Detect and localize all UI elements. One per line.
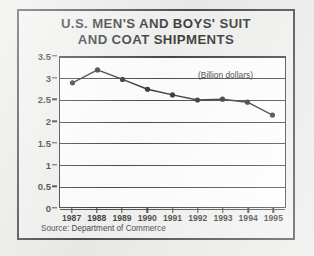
x-axis-tick-label: 1991	[163, 213, 182, 223]
data-point-marker	[195, 97, 200, 102]
x-axis-tick-mark	[273, 208, 274, 213]
data-point-marker	[245, 100, 250, 105]
x-axis-tick-label: 1990	[138, 213, 157, 223]
page-title: U.S. MEN'S AND BOYS' SUIT AND COAT SHIPM…	[19, 16, 293, 47]
chart-title-line-2: AND COAT SHIPMENTS	[19, 32, 293, 48]
x-axis-tick-label: 1988	[87, 213, 106, 223]
y-axis-tick-label: 1	[46, 159, 51, 170]
data-point-marker	[145, 87, 150, 92]
y-axis-tick-mark	[52, 207, 57, 208]
x-axis-tick-mark	[247, 208, 248, 213]
y-axis-tick-label: 2	[46, 116, 51, 127]
y-axis: 00.511.522.533.5	[19, 56, 57, 208]
x-axis-tick-label: 1987	[62, 213, 81, 223]
chart-title-line-1: U.S. MEN'S AND BOYS' SUIT	[61, 16, 251, 31]
data-point-marker	[170, 92, 175, 97]
x-axis-tick-label: 1993	[213, 213, 232, 223]
x-axis-tick-mark	[71, 208, 72, 213]
y-axis-tick-mark	[52, 164, 57, 165]
x-axis-tick-mark	[222, 208, 223, 213]
x-axis-tick-mark	[96, 208, 97, 213]
x-axis-tick-label: 1994	[239, 213, 258, 223]
x-axis-tick-mark	[197, 208, 198, 213]
y-axis-tick-label: 0	[46, 203, 51, 214]
y-axis-tick-label: 3	[46, 72, 51, 83]
y-axis-tick-label: 2.5	[38, 94, 51, 105]
x-axis-tick-mark	[121, 208, 122, 213]
y-axis-tick-mark	[52, 120, 57, 121]
data-point-marker	[270, 113, 275, 118]
y-axis-tick-mark	[52, 77, 57, 78]
source-note: Source: Department of Commerce	[41, 224, 166, 233]
y-axis-tick-mark	[52, 142, 57, 143]
x-axis-tick-label: 1995	[264, 213, 283, 223]
x-axis-tick-mark	[147, 208, 148, 213]
x-axis-tick-label: 1989	[112, 213, 131, 223]
x-axis-tick-mark	[172, 208, 173, 213]
y-axis-tick-mark	[52, 55, 57, 56]
y-axis-tick-label: 0.5	[38, 181, 51, 192]
data-point-marker	[220, 97, 225, 102]
figure-frame: U.S. MEN'S AND BOYS' SUIT AND COAT SHIPM…	[17, 9, 295, 240]
y-axis-tick-label: 3.5	[38, 51, 51, 62]
y-axis-tick-mark	[52, 99, 57, 100]
data-point-marker	[120, 77, 125, 82]
y-axis-tick-mark	[52, 186, 57, 187]
units-annotation: (Billion dollars)	[198, 70, 253, 80]
data-point-marker	[70, 80, 75, 85]
y-axis-tick-label: 1.5	[38, 137, 51, 148]
data-point-marker	[95, 67, 100, 72]
chart-screenshot: U.S. MEN'S AND BOYS' SUIT AND COAT SHIPM…	[0, 0, 314, 256]
x-axis-tick-label: 1992	[188, 213, 207, 223]
